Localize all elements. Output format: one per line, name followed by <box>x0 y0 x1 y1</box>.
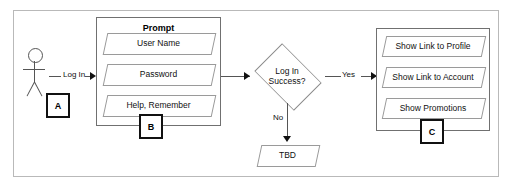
decision-label-line2: Success? <box>269 76 306 86</box>
edge-label-yes: Yes <box>341 70 356 79</box>
annotation-box-c: C <box>420 119 444 144</box>
flowchart-canvas: A Log In Prompt User Name Password Help,… <box>0 0 511 191</box>
actor-head-icon <box>28 48 43 63</box>
edge-yes-line-left <box>325 76 341 77</box>
node-show-link-profile-label: Show Link to Profile <box>384 36 482 55</box>
node-user-name[interactable]: User Name <box>105 33 212 53</box>
node-show-link-account[interactable]: Show Link to Account <box>384 67 482 86</box>
node-password-label: Password <box>105 64 212 84</box>
edge-label-no: No <box>272 113 284 122</box>
edge-no-line <box>287 103 288 139</box>
node-tbd[interactable]: TBD <box>259 145 316 165</box>
edge-label-login: Log In <box>62 70 86 79</box>
decision-label-line1: Log In <box>275 66 299 76</box>
actor-leg-right-icon <box>34 82 42 97</box>
node-help-remember-label: Help, Remember <box>105 95 212 115</box>
actor-arms-icon <box>23 69 45 70</box>
node-password[interactable]: Password <box>105 64 212 84</box>
edge-login-line-left <box>49 76 61 77</box>
node-help-remember[interactable]: Help, Remember <box>105 95 212 115</box>
prompt-group-title: Prompt <box>97 23 220 33</box>
user-actor <box>22 48 48 100</box>
annotation-box-a: A <box>46 93 70 118</box>
edge-no-arrowhead <box>283 136 291 142</box>
annotation-box-b: B <box>139 114 163 139</box>
node-show-link-account-label: Show Link to Account <box>384 67 482 86</box>
decision-login-success[interactable]: Log In Success? <box>249 49 325 103</box>
node-show-link-profile[interactable]: Show Link to Profile <box>384 36 482 55</box>
decision-label: Log In Success? <box>249 49 325 103</box>
node-show-promotions[interactable]: Show Promotions <box>384 98 482 117</box>
node-user-name-label: User Name <box>105 33 212 53</box>
actor-body-icon <box>34 61 35 83</box>
node-show-promotions-label: Show Promotions <box>384 98 482 117</box>
actor-leg-left-icon <box>27 82 35 97</box>
node-tbd-label: TBD <box>259 145 316 165</box>
